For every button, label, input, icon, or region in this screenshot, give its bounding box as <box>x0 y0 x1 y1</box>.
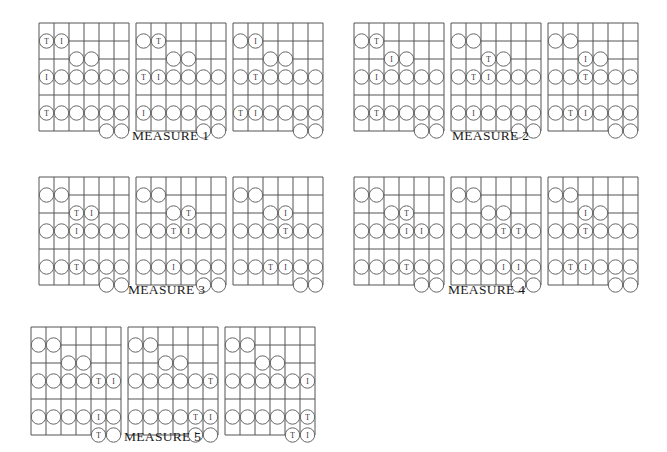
diagram-4-2[interactable]: TTII <box>442 168 550 294</box>
note-marker[interactable] <box>608 124 622 138</box>
note-marker[interactable] <box>414 124 428 138</box>
note-marker[interactable] <box>496 52 510 66</box>
note-marker[interactable] <box>31 374 45 388</box>
note-marker[interactable] <box>278 52 292 66</box>
note-marker[interactable] <box>39 224 53 238</box>
diagram-5-1[interactable]: TIIT <box>22 318 130 444</box>
note-marker[interactable] <box>196 224 210 238</box>
note-marker[interactable] <box>548 224 562 238</box>
note-marker[interactable] <box>293 106 307 120</box>
note-marker[interactable] <box>54 224 68 238</box>
note-marker[interactable] <box>263 70 277 84</box>
note-marker[interactable] <box>593 106 607 120</box>
note-marker[interactable] <box>166 70 180 84</box>
note-marker[interactable] <box>414 70 428 84</box>
note-marker[interactable] <box>414 260 428 274</box>
note-marker[interactable] <box>608 224 622 238</box>
note-marker[interactable] <box>255 410 269 424</box>
note-marker[interactable] <box>608 278 622 292</box>
note-marker[interactable] <box>384 106 398 120</box>
note-marker[interactable] <box>548 34 562 48</box>
note-marker[interactable] <box>99 224 113 238</box>
note-marker[interactable] <box>255 356 269 370</box>
note-marker[interactable] <box>270 374 284 388</box>
note-marker[interactable] <box>451 224 465 238</box>
note-marker[interactable] <box>54 188 68 202</box>
note-marker[interactable] <box>166 52 180 66</box>
note-marker[interactable] <box>593 224 607 238</box>
note-marker[interactable] <box>136 34 150 48</box>
note-marker[interactable] <box>99 70 113 84</box>
note-marker[interactable] <box>233 260 247 274</box>
note-marker[interactable] <box>384 260 398 274</box>
note-marker[interactable] <box>196 260 210 274</box>
note-marker[interactable] <box>466 188 480 202</box>
note-marker[interactable] <box>181 106 195 120</box>
diagram-3-1[interactable]: TIIT <box>30 168 138 294</box>
note-marker[interactable] <box>39 188 53 202</box>
note-marker[interactable] <box>240 410 254 424</box>
note-marker[interactable] <box>46 410 60 424</box>
diagram-3-3[interactable]: ITTI <box>224 168 332 294</box>
note-marker[interactable] <box>173 374 187 388</box>
note-marker[interactable] <box>99 124 113 138</box>
note-marker[interactable] <box>593 206 607 220</box>
note-marker[interactable] <box>143 374 157 388</box>
note-marker[interactable] <box>233 224 247 238</box>
note-marker[interactable] <box>451 260 465 274</box>
note-marker[interactable] <box>608 106 622 120</box>
note-marker[interactable] <box>196 106 210 120</box>
note-marker[interactable] <box>263 52 277 66</box>
note-marker[interactable] <box>54 260 68 274</box>
note-marker[interactable] <box>623 124 637 138</box>
note-marker[interactable] <box>136 260 150 274</box>
note-marker[interactable] <box>481 106 495 120</box>
note-marker[interactable] <box>511 70 525 84</box>
note-marker[interactable] <box>293 70 307 84</box>
note-marker[interactable] <box>623 106 637 120</box>
note-marker[interactable] <box>31 410 45 424</box>
note-marker[interactable] <box>84 260 98 274</box>
note-marker[interactable] <box>293 224 307 238</box>
diagram-2-2[interactable]: TTII <box>442 14 550 140</box>
note-marker[interactable] <box>69 106 83 120</box>
note-marker[interactable] <box>451 106 465 120</box>
note-marker[interactable] <box>84 224 98 238</box>
note-marker[interactable] <box>158 356 172 370</box>
note-marker[interactable] <box>225 410 239 424</box>
note-marker[interactable] <box>608 260 622 274</box>
note-marker[interactable] <box>173 410 187 424</box>
note-marker[interactable] <box>451 188 465 202</box>
note-marker[interactable] <box>308 260 322 274</box>
diagram-2-3[interactable]: ITTI <box>539 14 647 140</box>
note-marker[interactable] <box>166 106 180 120</box>
note-marker[interactable] <box>369 188 383 202</box>
note-marker[interactable] <box>354 106 368 120</box>
note-marker[interactable] <box>308 106 322 120</box>
note-marker[interactable] <box>593 260 607 274</box>
note-marker[interactable] <box>248 188 262 202</box>
note-marker[interactable] <box>263 224 277 238</box>
note-marker[interactable] <box>255 374 269 388</box>
note-marker[interactable] <box>240 374 254 388</box>
note-marker[interactable] <box>54 70 68 84</box>
note-marker[interactable] <box>69 70 83 84</box>
note-marker[interactable] <box>414 278 428 292</box>
note-marker[interactable] <box>181 70 195 84</box>
diagram-4-3[interactable]: ITTI <box>539 168 647 294</box>
note-marker[interactable] <box>563 224 577 238</box>
note-marker[interactable] <box>354 70 368 84</box>
note-marker[interactable] <box>593 52 607 66</box>
note-marker[interactable] <box>623 278 637 292</box>
note-marker[interactable] <box>46 338 60 352</box>
note-marker[interactable] <box>399 70 413 84</box>
note-marker[interactable] <box>384 224 398 238</box>
note-marker[interactable] <box>608 70 622 84</box>
note-marker[interactable] <box>39 260 53 274</box>
note-marker[interactable] <box>61 356 75 370</box>
note-marker[interactable] <box>233 34 247 48</box>
note-marker[interactable] <box>496 70 510 84</box>
diagram-1-1[interactable]: TIIT <box>30 14 138 140</box>
note-marker[interactable] <box>99 278 113 292</box>
note-marker[interactable] <box>548 70 562 84</box>
